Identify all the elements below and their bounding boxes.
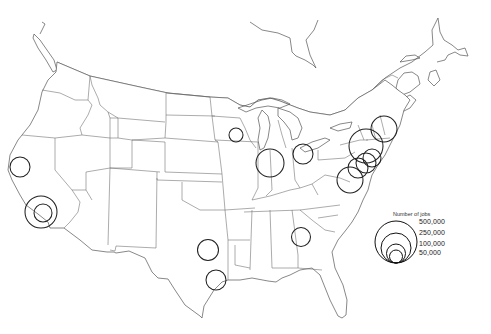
hudson-bay-shore bbox=[250, 20, 318, 68]
legend-label-500000: 500,000 bbox=[419, 218, 445, 225]
legend-label-250000: 250,000 bbox=[419, 229, 445, 236]
legend-label-50000: 50,000 bbox=[419, 249, 441, 256]
vancouver-island bbox=[33, 34, 57, 72]
legend-circle-250000 bbox=[381, 233, 411, 263]
legend-label-100000: 100,000 bbox=[419, 240, 445, 247]
us-map bbox=[0, 0, 491, 334]
legend-circle-500000 bbox=[375, 221, 417, 263]
legend-circle-100000 bbox=[387, 244, 406, 263]
legend-title: Number of jobs bbox=[393, 211, 430, 217]
legend-circle-50000 bbox=[390, 250, 403, 263]
legend-circles bbox=[375, 221, 417, 263]
us-outline bbox=[8, 62, 410, 318]
